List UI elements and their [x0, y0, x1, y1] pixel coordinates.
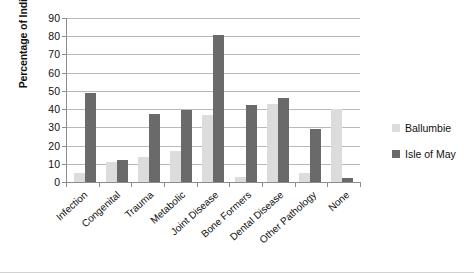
bar	[202, 115, 213, 182]
y-tick-label: 10	[48, 158, 60, 170]
legend-item[interactable]: Ballumbie	[392, 122, 456, 134]
y-axis-title: Percentage of Individuals	[17, 0, 29, 111]
y-tick-label: 50	[48, 85, 60, 97]
bar	[106, 162, 117, 182]
bar-group	[69, 18, 101, 182]
bar	[310, 129, 321, 182]
bar	[138, 157, 149, 183]
bar	[170, 151, 181, 182]
legend-item[interactable]: Isle of May	[392, 148, 456, 160]
bar	[267, 104, 278, 182]
legend-label: Ballumbie	[405, 122, 451, 134]
y-tick-label: 60	[48, 67, 60, 79]
y-tick-mark	[62, 36, 66, 37]
y-tick-label: 40	[48, 103, 60, 115]
bar-group	[230, 18, 262, 182]
y-tick-mark	[62, 109, 66, 110]
y-tick-label: 30	[48, 121, 60, 133]
bar-group	[197, 18, 229, 182]
y-tick-mark	[62, 127, 66, 128]
y-tick-mark	[62, 146, 66, 147]
bar	[299, 173, 310, 182]
bar	[149, 114, 160, 182]
y-tick-mark	[62, 164, 66, 165]
legend-swatch-icon	[392, 150, 400, 158]
chart-legend: BallumbieIsle of May	[392, 122, 456, 160]
bar	[246, 105, 257, 182]
bar-group	[262, 18, 294, 182]
bar-group	[101, 18, 133, 182]
bar	[278, 98, 289, 182]
y-tick-mark	[62, 91, 66, 92]
y-tick-label: 20	[48, 140, 60, 152]
bar-chart: Percentage of Individuals 01020304050607…	[0, 0, 474, 273]
legend-swatch-icon	[392, 124, 400, 132]
y-tick-mark	[62, 73, 66, 74]
y-tick-label: 80	[48, 30, 60, 42]
bar	[181, 110, 192, 182]
bar	[85, 93, 96, 182]
x-axis-labels: InfectionCongenitalTraumaMetabolicJoint …	[0, 187, 474, 273]
bar	[117, 160, 128, 182]
y-tick-label: 90	[48, 12, 60, 24]
bar-group	[294, 18, 326, 182]
legend-label: Isle of May	[405, 148, 456, 160]
y-tick-mark	[62, 54, 66, 55]
plot-area: 0102030405060708090	[66, 18, 360, 182]
bar	[213, 35, 224, 182]
y-tick-mark	[62, 18, 66, 19]
bar-group	[133, 18, 165, 182]
bar	[331, 109, 342, 182]
bar	[74, 173, 85, 182]
bar-group	[326, 18, 358, 182]
y-tick-label: 70	[48, 48, 60, 60]
bar-group	[165, 18, 197, 182]
bar-groups	[66, 18, 360, 182]
